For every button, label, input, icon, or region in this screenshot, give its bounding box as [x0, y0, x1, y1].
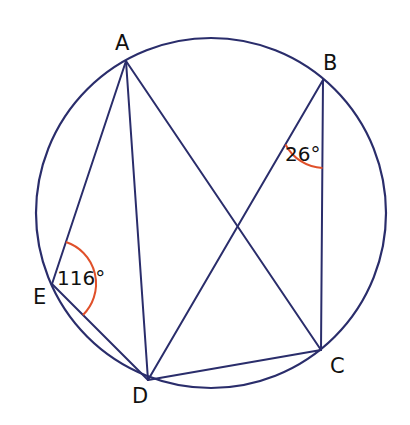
- segments: [52, 61, 323, 380]
- segment-AD: [126, 61, 148, 380]
- segment-DC: [148, 350, 321, 380]
- point-label-C: C: [330, 354, 345, 378]
- point-label-E: E: [33, 285, 46, 309]
- segment-BC: [321, 80, 323, 350]
- segment-AE: [52, 61, 126, 284]
- segment-AC: [126, 61, 321, 350]
- point-label-A: A: [115, 31, 130, 55]
- point-label-B: B: [323, 51, 337, 75]
- segment-BD: [148, 80, 323, 380]
- segment-ED: [52, 284, 148, 380]
- circumscribed-circle: [36, 38, 386, 388]
- point-label-D: D: [132, 384, 148, 408]
- angle-label-B: 26°: [285, 142, 320, 166]
- angle-label-E: 116°: [57, 266, 105, 290]
- circle-geometry-diagram: 26° 116° A B C D E: [0, 0, 410, 425]
